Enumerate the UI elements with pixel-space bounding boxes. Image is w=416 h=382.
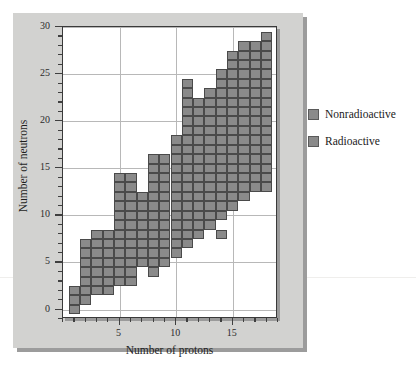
nuclide-cell — [148, 267, 159, 276]
nuclide-cell — [159, 211, 170, 220]
nuclide-cell — [182, 239, 193, 248]
nuclide-cell — [238, 41, 249, 50]
nuclide-cell — [238, 135, 249, 144]
y-tick-minor — [58, 271, 62, 272]
y-tick-label: 15 — [28, 161, 50, 172]
nuclide-cell — [261, 32, 272, 41]
y-tick-minor — [58, 111, 62, 112]
y-tick-minor — [58, 243, 62, 244]
x-tick-label: 5 — [108, 327, 130, 338]
y-tick-minor — [58, 252, 62, 253]
nuclide-cell — [148, 164, 159, 173]
nuclide-cell — [227, 135, 238, 144]
nuclide-cell — [148, 220, 159, 229]
nuclide-cell — [125, 230, 136, 239]
nuclide-cell — [216, 192, 227, 201]
nuclide-cell — [91, 277, 102, 286]
nuclide-cell — [204, 154, 215, 163]
legend: Nonradioactive Radioactive — [308, 108, 413, 162]
y-tick-minor — [58, 290, 62, 291]
nuclide-cell — [148, 192, 159, 201]
nuclide-cell — [193, 173, 204, 182]
nuclide-cell — [227, 192, 238, 201]
nuclide-cell — [238, 88, 249, 97]
x-tick-minor — [266, 318, 267, 322]
nuclide-cell — [227, 164, 238, 173]
y-tick-minor — [58, 35, 62, 36]
nuclide-cell — [227, 69, 238, 78]
nuclide-cell — [193, 154, 204, 163]
nuclide-cell — [250, 51, 261, 60]
nuclide-cell — [261, 116, 272, 125]
nuclide-cell — [204, 135, 215, 144]
x-tick-label: 10 — [164, 327, 186, 338]
nuclide-cell — [261, 60, 272, 69]
legend-item-nonradioactive[interactable]: Nonradioactive — [308, 108, 413, 120]
nuclide-cell — [114, 173, 125, 182]
nuclide-cell — [204, 98, 215, 107]
nuclide-cell — [125, 192, 136, 201]
nuclide-cell — [91, 267, 102, 276]
nuclide-cell — [227, 201, 238, 210]
nuclide-cell — [250, 79, 261, 88]
nuclide-cell — [227, 126, 238, 135]
nuclide-cell — [171, 230, 182, 239]
nuclide-cell — [216, 164, 227, 173]
nuclide-cell — [114, 220, 125, 229]
nuclide-cell — [103, 258, 114, 267]
nuclide-cell — [182, 79, 193, 88]
nuclide-cell — [91, 286, 102, 295]
nuclide-cell — [80, 286, 91, 295]
legend-item-radioactive[interactable]: Radioactive — [308, 135, 413, 147]
nuclide-cell — [227, 182, 238, 191]
nuclide-cell — [103, 239, 114, 248]
y-tick-minor — [58, 299, 62, 300]
nuclide-cell — [171, 154, 182, 163]
nuclide-cell — [137, 201, 148, 210]
gridline-horizontal — [63, 27, 276, 28]
nuclide-cell — [80, 277, 91, 286]
nuclide-cell — [171, 182, 182, 191]
nuclide-cell — [261, 173, 272, 182]
nuclide-cell — [159, 258, 170, 267]
nuclide-cell — [182, 164, 193, 173]
nuclide-cell — [261, 164, 272, 173]
nuclide-cell — [182, 88, 193, 97]
nuclide-cell — [148, 211, 159, 220]
nuclide-cell — [238, 182, 249, 191]
nuclide-cell — [250, 88, 261, 97]
nuclide-cell — [182, 145, 193, 154]
nuclide-cell — [227, 88, 238, 97]
nuclide-cell — [216, 69, 227, 78]
nuclide-cell — [125, 173, 136, 182]
nuclide-cell — [125, 220, 136, 229]
y-tick-minor — [58, 130, 62, 131]
nuclide-cell — [250, 154, 261, 163]
nuclide-cell — [148, 173, 159, 182]
nuclide-cell — [250, 107, 261, 116]
nuclide-cell — [103, 230, 114, 239]
y-tick-label: 5 — [28, 255, 50, 266]
nuclide-cell — [103, 286, 114, 295]
nuclide-cell — [193, 116, 204, 125]
nuclide-cell — [69, 305, 80, 314]
nuclide-cell — [125, 277, 136, 286]
nuclide-cell — [103, 277, 114, 286]
nuclide-cell — [80, 258, 91, 267]
nuclide-cell — [171, 192, 182, 201]
nuclide-cell — [159, 182, 170, 191]
legend-label-radioactive: Radioactive — [325, 135, 380, 147]
nuclide-cell — [91, 248, 102, 257]
nuclide-cell — [238, 107, 249, 116]
nuclide-cell — [171, 164, 182, 173]
nuclide-cell — [261, 135, 272, 144]
nuclide-cell — [238, 116, 249, 125]
nuclide-cell — [171, 239, 182, 248]
y-tick-minor — [58, 205, 62, 206]
nuclide-cell — [80, 267, 91, 276]
nuclide-cell — [193, 145, 204, 154]
nuclide-cell — [227, 107, 238, 116]
x-tick-minor — [73, 318, 74, 322]
y-tick-label: 0 — [28, 303, 50, 314]
nuclide-cell — [204, 220, 215, 229]
